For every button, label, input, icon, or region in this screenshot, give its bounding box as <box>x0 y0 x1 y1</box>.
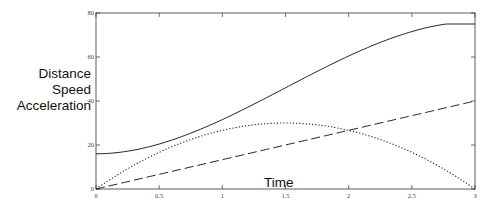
series-distance-line <box>96 24 475 154</box>
y-tick-label: 0 <box>91 185 94 192</box>
plot-frame <box>96 13 475 189</box>
y-axis-label-acceleration: Acceleration <box>17 98 91 114</box>
x-tick-label: 2 <box>347 192 350 199</box>
y-axis-label-distance: Distance <box>17 66 91 82</box>
x-tick-label: 3 <box>473 192 476 199</box>
y-tick-label: 80 <box>88 9 95 16</box>
plot-axes <box>96 13 475 189</box>
axis-ticks: 00.511.522.53020406080 <box>88 9 477 199</box>
x-tick-label: 0 <box>94 192 97 199</box>
series-lines <box>96 24 475 189</box>
x-axis-label: Time <box>264 175 294 190</box>
x-tick-label: 1 <box>221 192 224 199</box>
y-tick-label: 20 <box>88 141 95 148</box>
x-tick-label: 2.5 <box>408 192 416 199</box>
y-axis-label: Distance Speed Acceleration <box>17 66 91 114</box>
y-tick-label: 60 <box>88 53 95 60</box>
x-tick-label: 0.5 <box>155 192 163 199</box>
y-axis-label-speed: Speed <box>17 82 91 98</box>
x-tick-label: 1.5 <box>281 192 289 199</box>
